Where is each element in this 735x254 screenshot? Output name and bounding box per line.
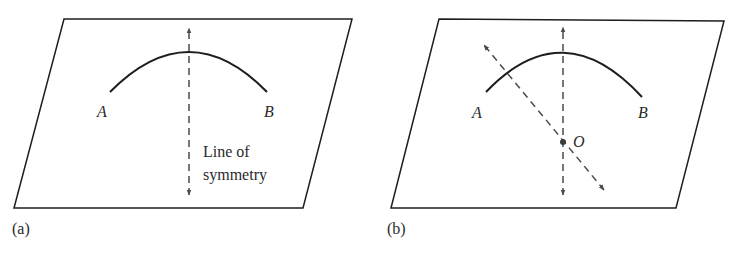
point-o-dot bbox=[560, 139, 566, 145]
annotation-line-of: Line of bbox=[203, 143, 250, 160]
point-b-label: B bbox=[638, 104, 648, 121]
point-a-label: A bbox=[471, 104, 482, 121]
point-a-label: A bbox=[96, 103, 107, 120]
figure-canvas: A B Line of symmetry (a) A B O (b) bbox=[0, 0, 735, 254]
plane-parallelogram bbox=[14, 19, 352, 208]
point-o-label: O bbox=[573, 133, 585, 150]
panel-a: A B Line of symmetry (a) bbox=[12, 19, 352, 238]
annotation-symmetry: symmetry bbox=[203, 166, 267, 184]
panel-caption: (a) bbox=[12, 220, 30, 238]
plane-parallelogram bbox=[391, 19, 724, 208]
point-b-label: B bbox=[264, 103, 274, 120]
diagonal-bisector bbox=[484, 45, 604, 190]
panel-b: A B O (b) bbox=[387, 19, 724, 238]
panel-caption: (b) bbox=[387, 220, 406, 238]
